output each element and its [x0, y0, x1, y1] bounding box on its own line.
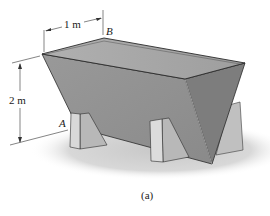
support-left-front — [70, 113, 80, 149]
dim-1m-arrow-right — [96, 18, 102, 21]
point-b-label: B — [106, 25, 113, 37]
point-a-label: A — [58, 117, 66, 129]
support-middle-front — [150, 119, 163, 162]
dim-1m-label: 1 m — [64, 18, 81, 30]
dim-2m-label: 2 m — [9, 94, 26, 106]
dim-2m-arrow-top — [18, 63, 22, 69]
dim-1m-arrow-left — [45, 28, 51, 31]
trough-diagram: 1 m B 2 m A (a) — [0, 0, 270, 216]
dim-2m-ext-top — [12, 56, 40, 63]
figure-caption: (a) — [141, 189, 154, 202]
